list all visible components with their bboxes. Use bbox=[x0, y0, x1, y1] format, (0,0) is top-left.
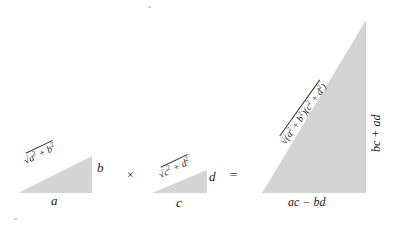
multiplication-operator: × bbox=[127, 169, 134, 181]
triangles-graphic bbox=[0, 0, 396, 226]
triangle-product-leg-label: bc + ad bbox=[370, 115, 382, 152]
diagram-canvas: √a2 + b2 b a × √c2 + d2 d c = √(a2 + b2)… bbox=[0, 0, 396, 226]
triangle-product-base-label: ac − bd bbox=[288, 196, 325, 208]
scan-speck-bottom bbox=[14, 218, 17, 220]
triangle-factor-2-leg-label: d bbox=[209, 170, 216, 183]
triangle-factor-1-leg-label: b bbox=[97, 161, 104, 174]
triangle-factor-2-base-label: c bbox=[176, 196, 182, 209]
equals-operator: = bbox=[230, 168, 237, 181]
triangle-factor-1-base-label: a bbox=[51, 194, 58, 207]
scan-speck-top bbox=[148, 6, 151, 8]
